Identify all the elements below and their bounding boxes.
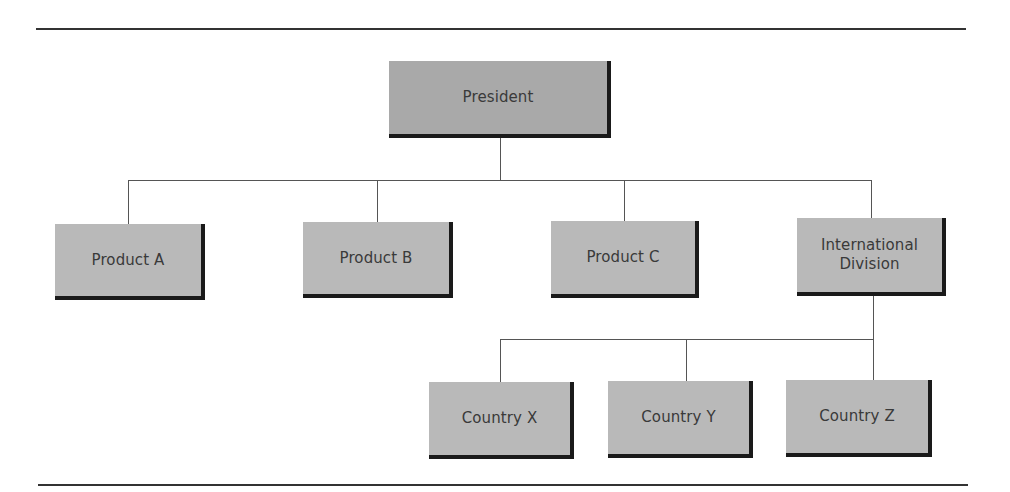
node-label: International Division — [821, 236, 918, 274]
node-product-a: Product A — [55, 224, 205, 300]
node-international-division: International Division — [797, 218, 946, 296]
node-label: Product C — [586, 248, 659, 267]
node-label: Country Y — [641, 408, 715, 427]
node-label: Product B — [340, 249, 413, 268]
connector-country-y — [686, 339, 687, 381]
node-product-b: Product B — [303, 222, 453, 298]
connector-level1-bar — [128, 180, 872, 181]
connector-country-x — [500, 339, 501, 382]
connector-product-b — [377, 180, 378, 222]
connector-international-division — [871, 180, 872, 218]
node-label: Product A — [92, 251, 165, 270]
connector-product-c — [624, 180, 625, 221]
node-label: Country X — [462, 409, 538, 428]
node-country-x: Country X — [429, 382, 574, 459]
node-product-c: Product C — [551, 221, 699, 298]
node-label: President — [463, 88, 534, 107]
connector-level2-bar — [500, 339, 874, 340]
bottom-rule — [38, 484, 968, 486]
connector-president-down — [500, 137, 501, 180]
node-label: Country Z — [819, 407, 895, 426]
connector-product-a — [128, 180, 129, 224]
node-president: President — [389, 61, 611, 138]
node-country-y: Country Y — [608, 381, 753, 458]
node-country-z: Country Z — [786, 380, 932, 457]
top-rule — [36, 28, 966, 30]
